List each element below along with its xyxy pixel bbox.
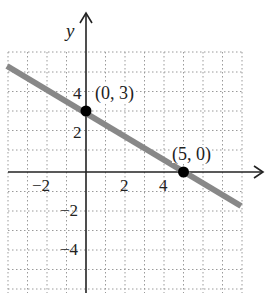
x-tick-4: 4 bbox=[159, 177, 168, 194]
point-label-0-3: (0, 3) bbox=[95, 84, 134, 102]
y-tick-neg4: −4 bbox=[60, 241, 78, 258]
axes bbox=[8, 13, 263, 293]
y-tick-neg2: −2 bbox=[60, 202, 78, 219]
y-tick-4: 4 bbox=[73, 85, 82, 102]
y-axis-label: y bbox=[66, 21, 74, 40]
x-tick-2: 2 bbox=[120, 177, 129, 194]
point-label-5-0: (5, 0) bbox=[172, 145, 211, 163]
point-0-3 bbox=[81, 106, 92, 117]
graph-canvas bbox=[0, 0, 266, 293]
x-tick-neg2: −2 bbox=[32, 177, 50, 194]
y-tick-2: 2 bbox=[73, 124, 82, 141]
point-5-0 bbox=[178, 167, 189, 178]
